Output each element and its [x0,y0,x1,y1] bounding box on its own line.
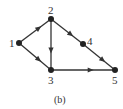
nodes [16,16,118,73]
edges [19,19,115,73]
node-3 [48,67,54,73]
edge-2-4 [51,19,83,44]
caption: (b) [54,94,66,106]
edge-1-2 [19,19,51,43]
node-label-3: 3 [48,74,54,86]
edge-4-5 [83,44,115,70]
node-4 [80,41,86,47]
node-label-2: 2 [48,4,54,16]
node-5 [112,67,118,73]
arrowhead-3-5 [88,67,94,72]
node-2 [48,16,54,22]
node-label-4: 4 [87,35,93,47]
node-label-1: 1 [9,37,15,49]
directed-graph: 1 2 3 4 5 (b) [0,0,123,109]
node-1 [16,40,22,46]
arrowhead-2-3 [48,48,53,54]
edge-1-3 [19,43,51,70]
node-label-5: 5 [112,74,118,86]
